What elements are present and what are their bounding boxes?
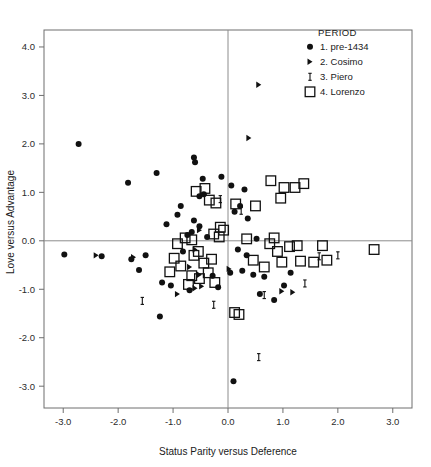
data-point [245,216,251,222]
data-point [254,236,260,242]
data-point [189,251,199,261]
data-point [192,159,198,165]
data-point [228,183,234,189]
y-axis-title: Love versus Advantage [5,170,16,274]
data-point [265,239,275,249]
data-point [174,212,180,218]
legend-title: PERIOD [318,27,357,38]
legend: PERIOD1. pre-14342. Cosimo3. Piero4. Lor… [305,27,368,97]
data-point [94,252,99,258]
data-point [157,313,163,319]
data-point [214,232,224,242]
data-point [191,217,197,223]
data-point [200,176,206,182]
data-point [281,282,287,288]
data-point [199,258,209,268]
data-point [159,279,165,285]
data-point [257,291,263,297]
x-tick-label: -2.0 [110,416,126,427]
y-tick-label: 4.0 [22,41,35,52]
data-point [271,297,277,303]
x-axis-title: Status Parity versus Deference [159,446,297,457]
data-point [250,272,256,278]
data-point [322,255,332,265]
data-point [184,280,194,290]
data-point [169,253,179,263]
data-point [251,201,261,211]
data-point [369,245,379,255]
data-point [263,292,266,299]
plot-canvas: -3.0-2.0-1.00.01.02.03.0 4.03.02.01.00.0… [0,0,431,467]
data-point [290,289,295,295]
data-point [178,203,184,209]
data-point [279,183,289,193]
y-tick-label: 0.0 [22,235,35,246]
data-point [246,135,251,141]
data-point [165,267,175,277]
data-point [231,199,241,209]
scatter-plot-figure: -3.0-2.0-1.00.01.02.03.0 4.03.02.01.00.0… [0,0,431,467]
data-points [61,82,379,385]
legend-label: 4. Lorenzo [320,86,365,97]
data-point [76,141,82,147]
data-point [163,221,169,227]
data-point [309,257,319,267]
data-point [230,378,236,384]
data-point [211,198,221,208]
data-point [136,267,142,273]
data-point [256,82,261,88]
data-point [292,241,302,251]
data-point [277,257,287,267]
data-point [232,209,238,215]
data-point [175,291,180,297]
data-point [143,252,149,258]
data-point [187,264,192,270]
data-point [299,179,309,189]
x-tick-label: -1.0 [165,416,181,427]
data-point [210,278,220,288]
legend-label: 1. pre-1434 [320,41,369,52]
y-tick-label: 3.0 [22,90,35,101]
data-point [173,239,183,249]
data-point [200,184,210,194]
data-point [261,274,267,280]
series-3 [141,196,340,361]
data-point [241,186,247,192]
x-tick-label: 0.0 [221,416,234,427]
data-point [141,297,144,304]
data-point [296,256,306,266]
y-tick-label: 2.0 [22,138,35,149]
legend-marker-open-square [305,87,315,97]
data-point [212,301,215,308]
data-point [168,282,174,288]
data-point [242,234,252,244]
data-point [180,248,186,254]
data-point [235,247,241,253]
data-point [266,176,276,186]
data-point [259,262,269,272]
data-point [234,310,244,320]
data-point [336,252,339,259]
data-point [257,354,260,361]
data-point [239,268,245,274]
data-point [288,270,294,276]
data-point [318,241,328,251]
data-point [203,268,213,278]
data-point [279,288,284,294]
legend-marker-right-triangle [308,59,313,65]
y-tick-labels: 4.03.02.01.00.0-1.0-2.0-3.0 [19,41,35,391]
x-tick-labels: -3.0-2.0-1.00.01.02.03.0 [55,416,399,427]
data-point [199,283,204,289]
data-point [303,280,306,287]
data-point [276,193,286,203]
x-tick-label: 3.0 [386,416,399,427]
legend-marker-filled-circle [307,44,313,50]
data-point [248,255,258,265]
legend-marker-i-bar [308,73,311,80]
x-tick-label: 2.0 [331,416,344,427]
legend-label: 2. Cosimo [320,56,363,67]
y-tick-label: -3.0 [19,381,35,392]
legend-label: 3. Piero [320,71,353,82]
x-tick-label: 1.0 [276,416,289,427]
data-point [218,174,224,180]
